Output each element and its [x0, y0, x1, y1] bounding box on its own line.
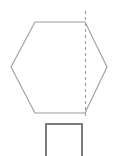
canvas-background — [0, 0, 122, 156]
figure-canvas — [0, 0, 122, 156]
figure-svg — [0, 0, 122, 156]
